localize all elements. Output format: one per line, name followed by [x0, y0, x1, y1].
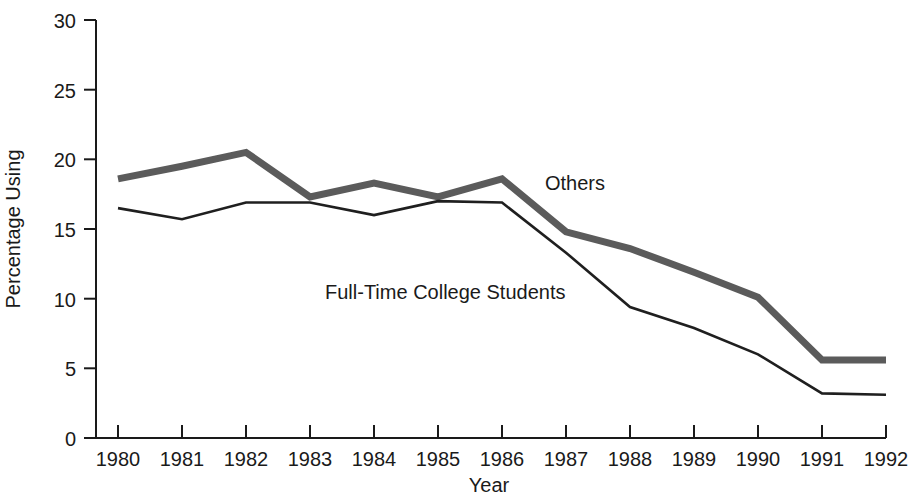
x-tick-label-1987: 1987: [544, 448, 589, 470]
x-tick-label-1984: 1984: [352, 448, 397, 470]
x-tick-label-1991: 1991: [800, 448, 845, 470]
y-tick-label-5: 5: [65, 358, 76, 380]
x-tick-label-1989: 1989: [672, 448, 717, 470]
x-tick-label-1992: 1992: [864, 448, 909, 470]
series-line-others: [118, 152, 886, 360]
x-axis-ticks: [118, 425, 886, 438]
y-tick-label-0: 0: [65, 428, 76, 450]
line-chart-canvas: 0 5 10 15 20 25 30 1980 1981: [0, 0, 923, 496]
series-annotation-full-time-college-students: Full-Time College Students: [325, 281, 565, 303]
x-tick-label-1981: 1981: [160, 448, 205, 470]
y-tick-label-10: 10: [54, 289, 76, 311]
y-tick-label-20: 20: [54, 149, 76, 171]
y-axis-title: Percentage Using: [2, 150, 24, 309]
x-axis-title: Year: [469, 474, 510, 496]
x-tick-label-1986: 1986: [480, 448, 525, 470]
chart-figure: 0 5 10 15 20 25 30 1980 1981: [0, 0, 923, 496]
x-tick-label-1990: 1990: [736, 448, 781, 470]
y-tick-label-30: 30: [54, 10, 76, 32]
x-tick-label-1982: 1982: [224, 448, 269, 470]
y-tick-label-25: 25: [54, 80, 76, 102]
x-tick-label-1980: 1980: [96, 448, 141, 470]
x-tick-label-1985: 1985: [416, 448, 461, 470]
y-axis-ticks: [84, 20, 96, 438]
series-annotation-others: Others: [545, 172, 605, 194]
y-tick-label-15: 15: [54, 219, 76, 241]
y-axis-tick-labels: 0 5 10 15 20 25 30: [54, 10, 76, 450]
x-tick-label-1983: 1983: [288, 448, 333, 470]
x-axis-tick-labels: 1980 1981 1982 1983 1984 1985 1986 1987 …: [96, 448, 909, 470]
x-tick-label-1988: 1988: [608, 448, 653, 470]
